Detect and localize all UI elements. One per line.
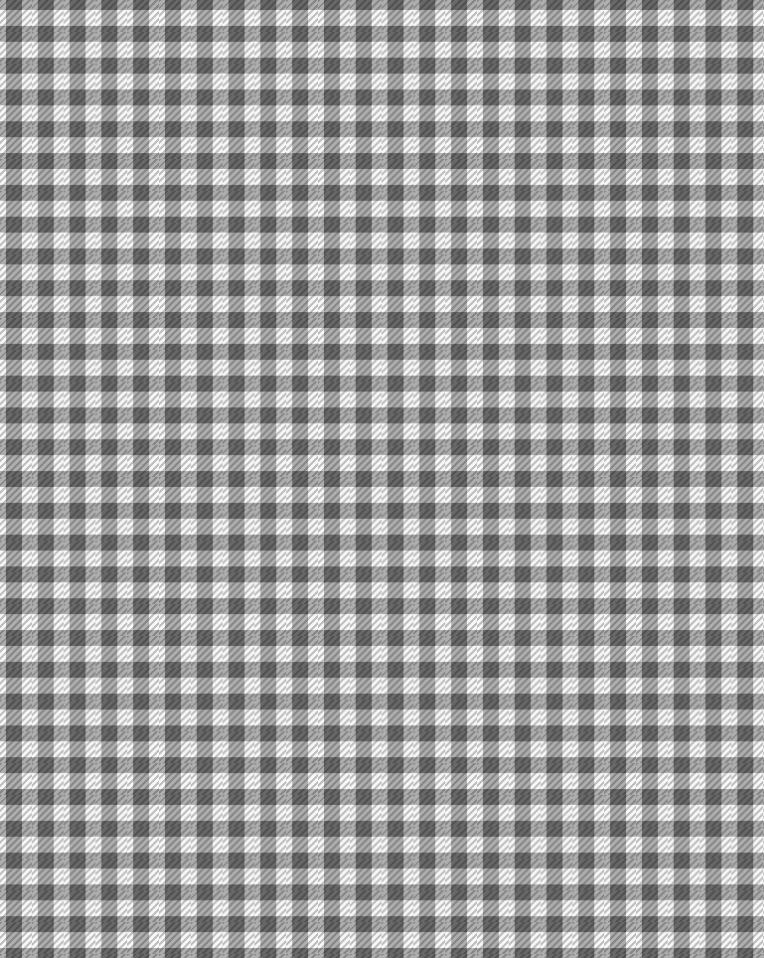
gingham-fabric-pattern [0,0,764,958]
